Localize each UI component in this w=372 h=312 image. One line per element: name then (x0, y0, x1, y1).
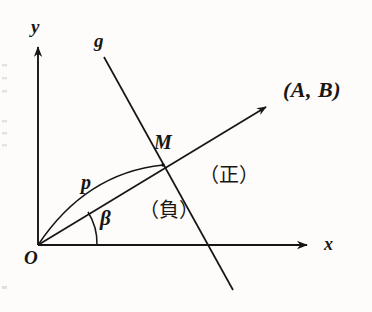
origin-label: O (24, 248, 38, 267)
axis-label-y: y (31, 17, 39, 36)
region-label-positive: （正） (199, 165, 259, 185)
line-g-label: g (94, 31, 104, 50)
curve-label-p: p (81, 172, 91, 192)
point-m-marker (161, 163, 164, 166)
ray-endpoint-label-ab: (A, B) (283, 79, 341, 101)
scan-edge-artifacts (2, 64, 7, 289)
angle-arc-beta (88, 212, 97, 245)
point-label-m: M (154, 132, 172, 152)
axis-label-x: x (324, 235, 333, 253)
region-label-negative: （負） (139, 200, 199, 220)
geometry-figure: y g (A, B) M p （正） （負） β O x (0, 0, 372, 312)
angle-label-beta: β (100, 208, 111, 229)
figure-canvas (0, 0, 372, 312)
